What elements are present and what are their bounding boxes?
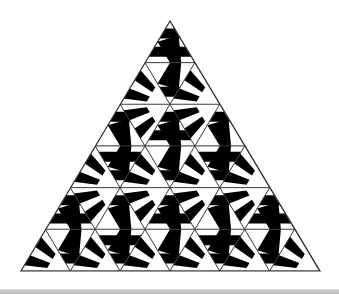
tile-group [21,21,320,271]
triangle-tiling-figure [0,0,339,294]
bottom-bar [0,289,339,294]
